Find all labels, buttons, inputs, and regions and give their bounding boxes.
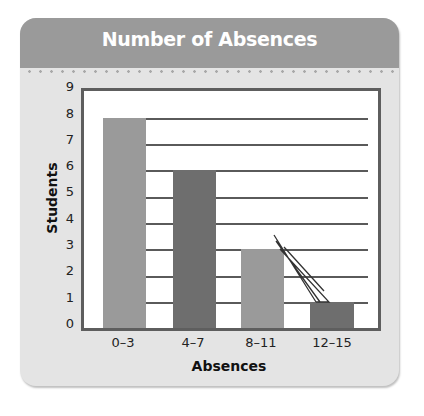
- chart-title: Number of Absences: [20, 28, 399, 50]
- pencil-scribble: [84, 91, 378, 328]
- y-tick-7: 7: [60, 132, 74, 147]
- y-tick-6: 6: [60, 158, 74, 173]
- y-axis-label: Students: [44, 158, 60, 238]
- x-tick-8-11: 8–11: [231, 335, 291, 350]
- y-tick-3: 3: [60, 237, 74, 252]
- y-tick-5: 5: [60, 184, 74, 199]
- x-tick-0-3: 0–3: [93, 335, 153, 350]
- y-tick-8: 8: [60, 106, 74, 121]
- y-tick-1: 1: [60, 290, 74, 305]
- chart-header: Number of Absences: [20, 18, 399, 68]
- chart-card: Number of Absences Students 9 8 7 6 5 4 …: [20, 18, 399, 386]
- dotted-divider: [24, 70, 395, 73]
- x-tick-12-15: 12–15: [302, 335, 362, 350]
- y-tick-2: 2: [60, 263, 74, 278]
- plot-area: [81, 88, 381, 331]
- y-tick-9: 9: [60, 79, 74, 94]
- y-tick-0: 0: [60, 316, 74, 331]
- x-tick-4-7: 4–7: [163, 335, 223, 350]
- y-tick-4: 4: [60, 211, 74, 226]
- x-axis-label: Absences: [179, 358, 279, 374]
